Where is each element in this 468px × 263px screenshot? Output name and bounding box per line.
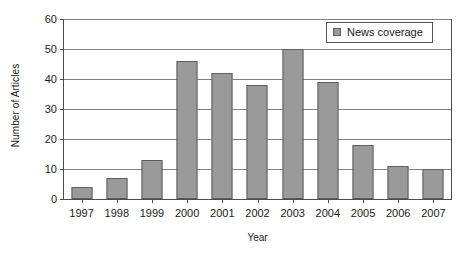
bar-slot xyxy=(310,19,345,199)
x-tick-label-2004: 2004 xyxy=(316,207,340,219)
y-axis-title-text: Number of Articles xyxy=(11,63,22,147)
x-tick-label-1997: 1997 xyxy=(69,207,93,219)
bar-2000 xyxy=(177,61,198,199)
legend: News coverage xyxy=(326,22,433,43)
x-tick-label-1998: 1998 xyxy=(105,207,129,219)
x-tick-mark xyxy=(187,199,188,203)
bar-slot xyxy=(205,19,240,199)
x-tick-mark xyxy=(258,199,259,203)
y-tick-label: 20 xyxy=(45,133,57,145)
bar-1997 xyxy=(71,187,92,199)
bar-slot xyxy=(381,19,416,199)
legend-swatch-news-coverage xyxy=(333,28,341,36)
y-axis-title: Number of Articles xyxy=(4,0,28,210)
x-tick-label-2006: 2006 xyxy=(386,207,410,219)
x-tick-label-1999: 1999 xyxy=(140,207,164,219)
x-tick-mark xyxy=(363,199,364,203)
bar-2001 xyxy=(212,73,233,199)
x-tick-mark xyxy=(117,199,118,203)
x-tick-label-2005: 2005 xyxy=(351,207,375,219)
x-tick-mark xyxy=(82,199,83,203)
x-tick-mark xyxy=(433,199,434,203)
bar-2002 xyxy=(247,85,268,199)
y-tick-label: 40 xyxy=(45,73,57,85)
bar-2004 xyxy=(317,82,338,199)
x-axis-title: Year xyxy=(63,232,452,243)
bar-slot xyxy=(345,19,380,199)
x-tick-label-2002: 2002 xyxy=(245,207,269,219)
bar-2005 xyxy=(353,145,374,199)
y-tick-label: 0 xyxy=(51,193,57,205)
bar-1998 xyxy=(106,178,127,199)
bar-chart-figure: Number of Articles 0102030405060 1997199… xyxy=(0,0,468,263)
y-tick-label: 30 xyxy=(45,103,57,115)
x-tick-mark xyxy=(328,199,329,203)
bar-slot xyxy=(416,19,451,199)
x-tick-label-2001: 2001 xyxy=(210,207,234,219)
x-tick-mark xyxy=(293,199,294,203)
bar-2006 xyxy=(388,166,409,199)
x-tick-mark xyxy=(152,199,153,203)
y-tick-label: 60 xyxy=(45,13,57,25)
bar-slot xyxy=(99,19,134,199)
x-tick-label-2000: 2000 xyxy=(175,207,199,219)
bar-slot xyxy=(240,19,275,199)
plot-area: 0102030405060 19971998199920002001200220… xyxy=(63,19,452,200)
bar-series-news-coverage xyxy=(64,19,451,199)
bar-slot xyxy=(134,19,169,199)
y-tick-mark xyxy=(60,199,64,200)
x-tick-mark xyxy=(222,199,223,203)
x-tick-mark xyxy=(398,199,399,203)
x-tick-label-2007: 2007 xyxy=(421,207,445,219)
bar-slot xyxy=(275,19,310,199)
bar-1999 xyxy=(141,160,162,199)
bar-2007 xyxy=(423,169,444,199)
x-tick-label-2003: 2003 xyxy=(280,207,304,219)
y-tick-label: 10 xyxy=(45,163,57,175)
bar-slot xyxy=(170,19,205,199)
y-tick-label: 50 xyxy=(45,43,57,55)
legend-label-news-coverage: News coverage xyxy=(347,26,423,38)
bar-2003 xyxy=(282,49,303,199)
bar-slot xyxy=(64,19,99,199)
